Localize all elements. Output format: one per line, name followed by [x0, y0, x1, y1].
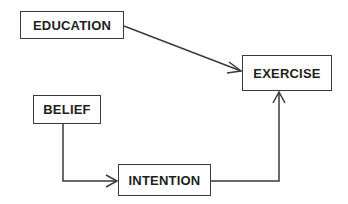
- edge-belief-intention: [63, 124, 117, 181]
- diagram-canvas: EDUCATION EXERCISE BELIEF INTENTION: [0, 0, 348, 204]
- node-education: EDUCATION: [20, 11, 124, 39]
- node-intention: INTENTION: [118, 164, 211, 196]
- node-label: EXERCISE: [253, 66, 320, 81]
- node-belief: BELIEF: [33, 95, 101, 124]
- edge-education-exercise: [124, 26, 241, 71]
- node-label: BELIEF: [43, 102, 90, 117]
- edge-intention-exercise: [211, 92, 279, 181]
- node-label: EDUCATION: [33, 18, 111, 33]
- node-label: INTENTION: [129, 173, 201, 188]
- node-exercise: EXERCISE: [242, 55, 332, 91]
- arrowhead-icon: [227, 62, 241, 73]
